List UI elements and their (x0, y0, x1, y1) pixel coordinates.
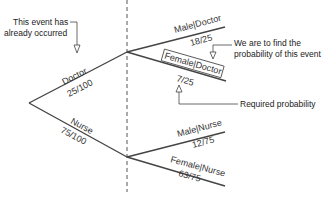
occurred-note-line2: already occurred (4, 28, 68, 38)
required-note: Required probability (240, 99, 316, 109)
required-arrow-icon (176, 85, 182, 92)
occurred-arrow-icon (74, 45, 80, 53)
branch-nurse (29, 103, 127, 157)
occurred-leader-line (70, 22, 77, 45)
find-note-line1: We are to find the (234, 38, 301, 48)
male-nurse-label: Male|Nurse (176, 117, 223, 139)
find-leader-line (213, 45, 232, 52)
male-doctor-label: Male|Doctor (173, 13, 222, 35)
male-nurse-prob: 12/75 (191, 134, 215, 149)
occurred-note-line1: This event has (13, 17, 68, 27)
required-leader-line (179, 92, 238, 104)
probability-tree-diagram: Doctor 25/100 Nurse 75/100 Male|Doctor 1… (0, 0, 323, 197)
find-arrow-icon (210, 52, 216, 59)
find-note-line2: probability of this event (234, 49, 322, 59)
